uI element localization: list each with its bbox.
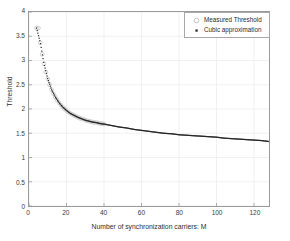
y-axis-title: Threshold [6,52,13,132]
legend-entry-cubic-approximation: Cubic approximation [188,25,266,35]
filled-dot-marker-icon [188,27,204,34]
legend-label-cubic-approximation: Cubic approximation [204,27,261,33]
y-tick-label: 0 [21,204,25,211]
open-circle-marker-icon [188,17,204,24]
data-series-layer [29,12,269,206]
y-tick-label: 4 [21,8,25,15]
x-tick-label: 100 [212,210,223,217]
x-tick-label: 60 [138,210,145,217]
x-tick-label: 40 [100,210,107,217]
y-tick-label: 3 [21,57,25,64]
y-tick-label: 0.5 [16,179,25,186]
y-tick-label: 2 [21,106,25,113]
plot-area [28,11,270,207]
x-tick-label: 80 [176,210,183,217]
chart-figure: 00.511.522.533.54 020406080100120 Thresh… [0,0,290,241]
series-measured-threshold [35,26,106,126]
x-tick-label: 0 [26,210,30,217]
y-tick-label: 1.5 [16,130,25,137]
series-cubic-approximation [36,27,269,142]
x-axis-title: Number of synchronization carriers: M [28,223,270,230]
y-tick-label: 1 [21,155,25,162]
x-tick-label: 120 [249,210,260,217]
chart-legend: Measured Threshold Cubic approximation [184,12,270,38]
legend-label-measured-threshold: Measured Threshold [204,17,262,23]
y-tick-label: 3.5 [16,32,25,39]
y-axis-tick-labels: 00.511.522.533.54 [0,11,25,207]
y-tick-label: 2.5 [16,81,25,88]
x-axis-tick-labels: 020406080100120 [28,210,270,222]
x-tick-label: 20 [62,210,69,217]
legend-entry-measured-threshold: Measured Threshold [188,15,266,25]
